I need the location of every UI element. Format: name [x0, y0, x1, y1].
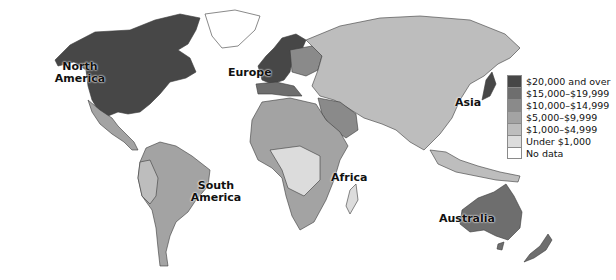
legend-swatch: [507, 123, 522, 135]
legend-label: Under $1,000: [526, 136, 591, 147]
label-africa: Africa: [331, 172, 367, 184]
greenland-shape: [205, 10, 260, 48]
label-text: Asia: [455, 96, 481, 109]
label-text: South America: [191, 179, 242, 204]
legend-item: $5,000–$9,999: [507, 111, 610, 123]
legend-label: $1,000–$4,999: [526, 124, 597, 135]
legend-item: $1,000–$4,999: [507, 123, 610, 135]
legend-label: $10,000–$14,999: [526, 100, 609, 111]
label-europe: Europe: [228, 67, 272, 79]
new-zealand-shape: [524, 234, 552, 262]
legend-item: $10,000–$14,999: [507, 99, 610, 111]
legend-item: $20,000 and over: [507, 75, 610, 87]
legend-swatch: [507, 75, 522, 87]
label-text: North America: [55, 60, 106, 85]
label-north-america: North America: [50, 61, 110, 85]
legend-swatch: [507, 135, 522, 147]
southern-europe-shape: [256, 82, 302, 96]
legend-label: $15,000–$19,999: [526, 88, 609, 99]
label-text: Europe: [228, 66, 272, 79]
legend-swatch: [507, 99, 522, 111]
label-text: Africa: [331, 171, 367, 184]
legend-swatch: [507, 87, 522, 99]
tasmania-shape: [497, 242, 504, 250]
label-australia: Australia: [439, 213, 495, 225]
legend-item: No data: [507, 147, 610, 159]
label-south-america: South America: [188, 180, 244, 204]
legend-item: Under $1,000: [507, 135, 610, 147]
label-asia: Asia: [455, 97, 481, 109]
legend-swatch: [507, 147, 522, 159]
legend-label: $20,000 and over: [526, 76, 610, 87]
legend-swatch: [507, 111, 522, 123]
label-text: Australia: [439, 212, 495, 225]
madagascar-shape: [346, 184, 358, 214]
legend-item: $15,000–$19,999: [507, 87, 610, 99]
map-legend: $20,000 and over $15,000–$19,999 $10,000…: [507, 75, 610, 159]
legend-label: $5,000–$9,999: [526, 112, 597, 123]
legend-label: No data: [526, 148, 563, 159]
